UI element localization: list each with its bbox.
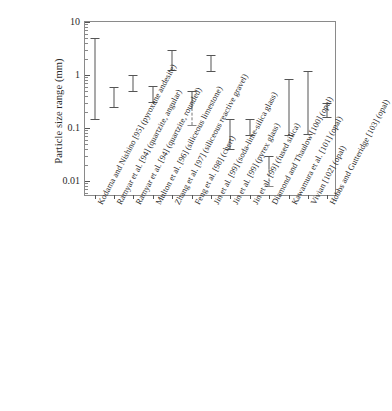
y-minor-tick-mark	[85, 24, 88, 25]
y-tick-label: 0.01	[63, 175, 81, 186]
x-tick-mark	[327, 195, 328, 199]
y-minor-tick-mark	[85, 133, 88, 134]
x-tick-mark	[308, 195, 309, 199]
y-minor-tick-mark	[85, 183, 88, 184]
y-minor-tick-mark	[85, 130, 88, 131]
y-minor-tick-mark	[85, 103, 88, 104]
range-bar-upper-cap	[168, 50, 177, 51]
y-minor-tick-mark	[85, 112, 88, 113]
x-tick-mark	[153, 195, 154, 199]
range-bar-lower-cap	[90, 119, 99, 120]
range-bar	[211, 55, 212, 71]
y-minor-tick-mark	[85, 59, 88, 60]
y-minor-tick-mark	[85, 193, 88, 194]
range-bar	[307, 71, 308, 134]
x-tick-mark	[250, 195, 251, 199]
range-bar	[94, 38, 95, 119]
range-bar	[114, 87, 115, 107]
x-tick-mark	[95, 195, 96, 199]
y-axis-tick-labels: 1010.10.01	[56, 21, 80, 196]
x-tick-mark	[192, 195, 193, 199]
range-bar-upper-cap	[90, 38, 99, 39]
y-minor-tick-mark	[85, 77, 88, 78]
y-minor-tick-mark	[85, 30, 88, 31]
range-bar-upper-cap	[303, 71, 312, 72]
range-bar	[133, 75, 134, 91]
y-minor-tick-mark	[85, 43, 88, 44]
range-bar-upper-cap	[129, 75, 138, 76]
y-tick-mark	[85, 181, 90, 182]
y-minor-tick-mark	[85, 34, 88, 35]
y-minor-tick-mark	[85, 80, 88, 81]
y-minor-tick-mark	[85, 186, 88, 187]
x-tick-mark	[172, 195, 173, 199]
y-tick-label: 0.1	[68, 122, 81, 133]
y-minor-tick-mark	[85, 156, 88, 157]
y-tick-label: 10	[70, 16, 80, 27]
y-tick-label: 1	[75, 69, 80, 80]
range-bar-upper-cap	[245, 119, 254, 120]
y-minor-tick-mark	[85, 83, 88, 84]
range-bar-upper-cap	[110, 87, 119, 88]
y-minor-tick-mark	[85, 144, 88, 145]
y-minor-tick-mark	[85, 140, 88, 141]
range-bar-upper-cap	[265, 156, 274, 157]
range-bar-lower-cap	[110, 107, 119, 108]
y-minor-tick-mark	[85, 189, 88, 190]
y-tick-mark	[85, 128, 90, 129]
y-minor-tick-mark	[85, 91, 88, 92]
y-tick-mark	[85, 75, 90, 76]
y-minor-tick-mark	[85, 165, 88, 166]
y-minor-tick-mark	[85, 136, 88, 137]
y-minor-tick-mark	[85, 38, 88, 39]
y-minor-tick-mark	[85, 27, 88, 28]
y-minor-tick-mark	[85, 87, 88, 88]
range-bar-upper-cap	[284, 79, 293, 80]
x-tick-mark	[133, 195, 134, 199]
y-tick-mark	[85, 22, 90, 23]
y-minor-tick-mark	[85, 149, 88, 150]
y-minor-tick-mark	[85, 96, 88, 97]
x-tick-mark	[269, 195, 270, 199]
x-tick-mark	[230, 195, 231, 199]
x-tick-mark	[289, 195, 290, 199]
range-bar-upper-cap	[207, 55, 216, 56]
x-tick-mark	[211, 195, 212, 199]
x-tick-mark	[114, 195, 115, 199]
range-bar	[288, 79, 289, 135]
range-bar-lower-cap	[207, 71, 216, 72]
range-bar-lower-cap	[129, 91, 138, 92]
y-minor-tick-mark	[85, 50, 88, 51]
